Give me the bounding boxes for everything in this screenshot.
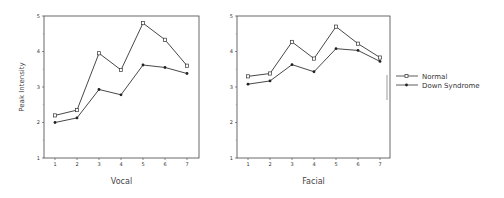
- square-marker-icon: [246, 75, 249, 78]
- legend-item-normal: Normal: [396, 73, 447, 81]
- square-marker-icon: [378, 56, 381, 59]
- dot-marker-icon: [164, 66, 167, 69]
- x-tick-label: 7: [378, 161, 381, 167]
- y-tick-label: 5: [230, 13, 233, 19]
- dot-marker-icon: [120, 93, 123, 96]
- y-tick-label: 1: [37, 155, 40, 161]
- x-tick-label: 7: [185, 161, 188, 167]
- y-tick-label: 5: [37, 13, 40, 19]
- square-marker-icon: [141, 22, 144, 25]
- dot-marker-icon: [313, 70, 316, 73]
- x-tick-label: 3: [97, 161, 100, 167]
- x-tick-label: 2: [75, 161, 78, 167]
- x-tick-label: 4: [119, 161, 122, 167]
- dot-marker-icon: [76, 116, 79, 119]
- square-marker-icon: [312, 57, 315, 60]
- series-line: [248, 49, 380, 85]
- x-tick-label: 4: [312, 161, 315, 167]
- square-marker-icon: [290, 40, 293, 43]
- x-tick-label: 5: [334, 161, 337, 167]
- square-marker-icon: [97, 52, 100, 55]
- square-marker-icon: [163, 38, 166, 41]
- x-tick-label: 1: [53, 161, 56, 167]
- dot-marker-icon: [54, 121, 57, 124]
- dot-marker-icon: [291, 63, 294, 66]
- square-marker-icon: [334, 25, 337, 28]
- dot-marker-icon: [269, 80, 272, 83]
- x-axis-label: Vocal: [111, 177, 132, 186]
- x-tick-label: 6: [163, 161, 166, 167]
- dot-marker-icon: [142, 64, 145, 67]
- y-tick-label: 2: [230, 119, 233, 125]
- y-tick-label: 1: [230, 155, 233, 161]
- x-tick-label: 6: [356, 161, 359, 167]
- legend-item-down-syndrome: Down Syndrome: [396, 82, 480, 90]
- legend-label-down-syndrome: Down Syndrome: [422, 82, 480, 90]
- dot-marker-icon: [247, 83, 250, 86]
- dot-marker-icon: [335, 47, 338, 50]
- square-marker-icon: [268, 72, 271, 75]
- y-tick-label: 3: [230, 84, 233, 90]
- square-marker-icon: [405, 75, 408, 78]
- x-tick-label: 1: [246, 161, 249, 167]
- square-marker-icon: [53, 114, 56, 117]
- x-axis-label: Facial: [302, 177, 325, 186]
- dot-marker-icon: [357, 49, 360, 52]
- y-axis-label: Peak Intensity: [18, 62, 26, 111]
- plot-frame: [237, 16, 390, 158]
- legend: Normal Down Syndrome: [387, 73, 480, 101]
- square-marker-icon: [356, 42, 359, 45]
- vocal-chart: 123451234567VocalPeak Intensity: [18, 13, 199, 186]
- dot-marker-icon: [186, 72, 189, 75]
- y-tick-label: 4: [230, 48, 233, 54]
- y-tick-label: 2: [37, 119, 40, 125]
- plot-frame: [44, 16, 199, 158]
- dot-marker-icon: [405, 84, 408, 87]
- square-marker-icon: [75, 108, 78, 111]
- dot-marker-icon: [379, 60, 382, 63]
- square-marker-icon: [119, 68, 122, 71]
- chart-canvas: 123451234567VocalPeak Intensity 12345123…: [0, 0, 504, 198]
- legend-label-normal: Normal: [422, 73, 447, 81]
- y-tick-label: 4: [37, 48, 40, 54]
- y-tick-label: 3: [37, 84, 40, 90]
- dot-marker-icon: [98, 88, 101, 91]
- facial-chart: 123451234567Facial: [230, 13, 390, 186]
- square-marker-icon: [185, 64, 188, 67]
- x-tick-label: 2: [268, 161, 271, 167]
- x-tick-label: 3: [290, 161, 293, 167]
- x-tick-label: 5: [141, 161, 144, 167]
